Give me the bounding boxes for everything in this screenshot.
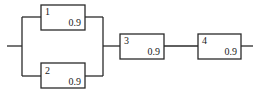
block-4-label: 4 — [202, 35, 207, 46]
block-2-label: 2 — [45, 65, 50, 76]
block-2: 2 0.9 — [41, 63, 85, 88]
reliability-block-diagram: 1 0.9 2 0.9 3 0.9 4 0.9 — [0, 0, 262, 98]
block-3: 3 0.9 — [120, 34, 164, 59]
block-3-reliability: 0.9 — [148, 46, 161, 57]
block-1-label: 1 — [45, 6, 50, 17]
block-3-label: 3 — [124, 35, 129, 46]
block-1: 1 0.9 — [41, 5, 85, 30]
block-4-reliability: 0.9 — [225, 46, 238, 57]
block-1-reliability: 0.9 — [69, 17, 82, 28]
block-4: 4 0.9 — [198, 34, 241, 59]
block-2-reliability: 0.9 — [69, 76, 82, 87]
